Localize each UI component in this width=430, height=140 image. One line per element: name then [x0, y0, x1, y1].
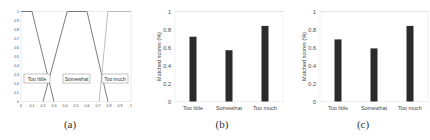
- y-tick-label: 0.2: [14, 82, 19, 86]
- x-tick-label: Too much: [398, 105, 422, 111]
- x-tick-label: Too little: [183, 105, 203, 111]
- x-tick-label: Too much: [253, 105, 277, 111]
- x-tick-label: 0.9: [118, 104, 123, 108]
- annotation-label: Too little: [28, 76, 47, 82]
- y-axis-label: Matched scores (%): [301, 32, 307, 81]
- y-tick-label: 0.6: [308, 45, 316, 51]
- membership-line-too-little: [21, 12, 54, 102]
- y-tick-label: 0: [313, 99, 316, 105]
- x-tick-label: Too little: [328, 105, 348, 111]
- y-tick-label: 0.8: [14, 28, 19, 32]
- y-tick-label: 0.1: [14, 91, 19, 95]
- x-tick-label: 0: [20, 104, 22, 108]
- x-tick-label: 0.3: [52, 104, 57, 108]
- annotation-label: Somewhat: [65, 76, 89, 82]
- y-tick-label: 0.9: [14, 19, 19, 23]
- bar-too-much: [407, 26, 414, 102]
- x-tick-label: 1: [130, 104, 132, 108]
- y-tick-label: 0.3: [14, 73, 19, 77]
- bar-too-little: [335, 39, 342, 101]
- plot-frame: [21, 12, 131, 102]
- y-tick-label: 1: [17, 10, 19, 14]
- membership-line-too-much: [99, 12, 131, 102]
- y-tick-label: 0.8: [163, 27, 171, 33]
- x-tick-label: 0.8: [107, 104, 112, 108]
- bar-plot-b: 00.20.40.60.81Matched scores (%)Too litt…: [145, 0, 285, 115]
- x-tick-label: 0.5: [74, 104, 79, 108]
- membership-line-somewhat: [43, 12, 108, 102]
- x-tick-label: Somewhat: [361, 105, 387, 111]
- caption-b: (b): [202, 118, 242, 130]
- y-tick-label: 0.6: [14, 46, 19, 50]
- y-tick-label: 0.4: [308, 63, 316, 69]
- membership-function-plot: 00.10.20.30.40.50.60.70.80.9100.10.20.30…: [0, 0, 140, 115]
- caption-a: (a): [50, 118, 90, 130]
- x-tick-label: 0.6: [85, 104, 90, 108]
- bar-somewhat: [371, 48, 378, 101]
- x-tick-label: 0.1: [30, 104, 35, 108]
- bar-too-little: [190, 37, 197, 102]
- x-tick-label: Somewhat: [216, 105, 242, 111]
- bar-plot-c: 00.20.40.60.81Matched scores (%)Too litt…: [290, 0, 430, 115]
- y-tick-label: 0: [168, 99, 171, 105]
- annotation-label: Too much: [104, 76, 126, 82]
- y-tick-label: 0.7: [14, 37, 19, 41]
- y-tick-label: 0: [17, 100, 19, 104]
- y-tick-label: 0.4: [163, 63, 171, 69]
- caption-c: (c): [343, 118, 383, 130]
- bar-too-much: [262, 26, 269, 102]
- x-tick-label: 0.2: [41, 104, 46, 108]
- y-tick-label: 0.2: [163, 81, 171, 87]
- x-tick-label: 0.4: [63, 104, 68, 108]
- y-tick-label: 1: [168, 9, 171, 15]
- y-tick-label: 0.4: [14, 64, 19, 68]
- y-tick-label: 0.8: [308, 27, 316, 33]
- y-tick-label: 0.5: [14, 55, 19, 59]
- bar-chart-c: 00.20.40.60.81Matched scores (%)Too litt…: [290, 0, 430, 115]
- y-tick-label: 0.6: [163, 45, 171, 51]
- bar-chart-b: 00.20.40.60.81Matched scores (%)Too litt…: [145, 0, 285, 115]
- y-tick-label: 1: [313, 9, 316, 15]
- y-axis-label: Matched scores (%): [156, 32, 162, 81]
- y-tick-label: 0.2: [308, 81, 316, 87]
- bar-somewhat: [226, 50, 233, 101]
- x-tick-label: 0.7: [96, 104, 101, 108]
- membership-function-chart: 00.10.20.30.40.50.60.70.80.9100.10.20.30…: [0, 0, 140, 115]
